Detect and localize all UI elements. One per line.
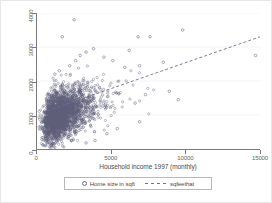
dashed-line-icon <box>145 183 167 184</box>
x-tick-10000: 10000 <box>185 150 186 151</box>
x-tick-5000: 5000 <box>111 150 112 151</box>
scatter-point <box>106 100 108 102</box>
scatter-point-outlier <box>116 127 119 130</box>
scatter-point-outlier <box>112 59 115 62</box>
scatter-point <box>96 84 98 86</box>
scatter-point-outlier <box>181 29 184 32</box>
scatter-point-outlier <box>137 36 140 39</box>
scatter-point <box>113 111 115 113</box>
plot-area <box>36 13 260 150</box>
scatter-point <box>65 73 67 75</box>
scatter-point <box>102 105 104 107</box>
scatter-point <box>110 82 112 84</box>
x-tick-15000: 15000 <box>260 150 261 151</box>
scatter-point <box>86 65 88 67</box>
x-axis-title: Household income 1997 (monthly) <box>36 163 260 170</box>
x-tick-mark <box>111 150 112 154</box>
scatter-point <box>107 92 109 94</box>
scatter-point-outlier <box>162 61 165 64</box>
scatter-point <box>139 100 141 102</box>
scatter-point-outlier <box>106 132 109 135</box>
scatter-point <box>52 77 54 79</box>
scatter-point-outlier <box>138 121 141 124</box>
scatter-point-outlier <box>149 36 152 39</box>
scatter-point <box>39 109 41 111</box>
legend-label-home-size: Home size in sqft <box>90 181 135 187</box>
scatter-point-outlier <box>254 54 257 57</box>
scatter-point <box>68 83 70 85</box>
x-tick-mark <box>185 150 186 154</box>
scatter-point <box>57 82 59 84</box>
y-tick-label: 1000 <box>28 112 34 125</box>
legend-entry-home-size: Home size in sqft <box>82 181 135 187</box>
scatter-point <box>76 139 78 141</box>
scatter-point-outlier <box>79 54 82 57</box>
scatter-point <box>97 116 99 118</box>
scatter-point <box>103 88 105 90</box>
scatter-point <box>57 143 59 145</box>
scatter-point <box>153 89 155 91</box>
scatter-plot-figure: 01000200030004000 050001000015000 Househ… <box>0 0 272 203</box>
scatter-point <box>92 78 94 80</box>
legend-label-fitted-line: sqfeethat <box>170 181 194 187</box>
scatter-point-outlier <box>123 66 126 69</box>
scatter-point <box>55 85 57 87</box>
scatter-point <box>93 104 95 106</box>
x-tick-label: 0 <box>34 155 37 161</box>
scatter-point-outlier <box>68 64 71 67</box>
scatter-point-outlier <box>94 139 97 142</box>
scatter-point <box>107 125 109 127</box>
y-tick-label: 4000 <box>28 10 34 23</box>
chart-legend: Home size in sqft sqfeethat <box>64 177 212 190</box>
scatter-point <box>121 106 123 108</box>
y-tick-4000: 4000 <box>1 13 31 14</box>
scatter-point-outlier <box>168 90 171 93</box>
legend-entry-fitted-line: sqfeethat <box>145 181 194 187</box>
scatter-point-outlier <box>74 59 77 62</box>
scatter-point-outlier <box>134 102 137 105</box>
x-tick-0: 0 <box>36 150 37 151</box>
scatter-point <box>94 102 96 104</box>
scatter-point <box>109 85 111 87</box>
scatter-point-outlier <box>54 73 57 76</box>
scatter-point <box>99 104 101 106</box>
scatter-point <box>77 67 79 69</box>
scatter-point <box>96 76 98 78</box>
scatter-point <box>138 72 140 74</box>
scatter-point <box>130 70 132 72</box>
scatter-point <box>80 82 82 84</box>
plot-canvas <box>37 13 260 149</box>
scatter-point <box>102 73 104 75</box>
y-tick-label: 3000 <box>28 44 34 57</box>
scatter-point-outlier <box>73 19 76 22</box>
scatter-point <box>148 113 150 115</box>
scatter-point-outlier <box>85 142 88 145</box>
scatter-point <box>112 92 114 94</box>
scatter-point-outlier <box>138 64 141 67</box>
x-tick-mark <box>36 150 37 154</box>
scatter-point <box>147 87 149 89</box>
scatter-point <box>60 140 62 142</box>
scatter-point-outlier <box>177 98 180 101</box>
scatter-point <box>122 101 124 103</box>
scatter-point <box>84 130 86 132</box>
y-tick-1000: 1000 <box>1 116 31 117</box>
scatter-point-outlier <box>128 49 131 52</box>
scatter-point <box>103 129 105 131</box>
scatter-point <box>114 107 116 109</box>
scatter-point <box>102 94 104 96</box>
y-tick-label: 0 <box>28 151 34 154</box>
scatter-point <box>50 90 52 92</box>
scatter-point <box>129 98 131 100</box>
x-tick-label: 15000 <box>252 155 268 161</box>
scatter-point <box>103 100 105 102</box>
y-tick-3000: 3000 <box>1 47 31 48</box>
scatter-point-outlier <box>85 51 88 54</box>
scatter-point <box>132 84 134 86</box>
scatter-marker-icon <box>82 181 87 186</box>
x-tick-mark <box>260 150 261 154</box>
scatter-point <box>60 74 62 76</box>
scatter-point <box>111 101 113 103</box>
y-tick-2000: 2000 <box>1 82 31 83</box>
scatter-point <box>94 84 96 86</box>
